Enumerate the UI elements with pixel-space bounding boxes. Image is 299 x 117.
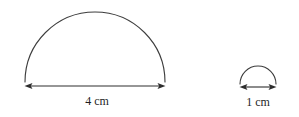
large-dimension-label: 4 cm xyxy=(85,94,109,108)
large-dimension-arrow xyxy=(25,83,166,89)
figure-canvas: 4 cm 1 cm xyxy=(0,0,299,117)
large-semicircle-arc xyxy=(25,12,165,82)
small-dimension-arrow xyxy=(240,84,277,90)
small-semicircle-arc xyxy=(240,66,276,84)
semicircle-diagram: 4 cm 1 cm xyxy=(0,0,299,117)
large-semicircle-group: 4 cm xyxy=(25,12,166,108)
small-semicircle-group: 1 cm xyxy=(240,66,277,109)
small-dimension-label: 1 cm xyxy=(246,95,270,109)
